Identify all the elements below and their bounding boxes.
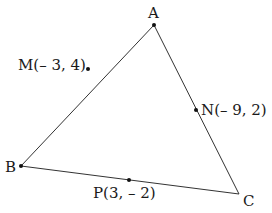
triangle-diagram: A B C M(– 3, 4) N(– 9, 2) P(3, – 2): [0, 0, 272, 213]
midpoint-p-label: P(3, – 2): [93, 184, 156, 202]
vertex-b-dot: [19, 164, 23, 168]
midpoint-m-label: M(– 3, 4): [18, 56, 86, 74]
side-ab: [21, 25, 154, 166]
vertex-a-dot: [152, 23, 156, 27]
midpoint-m-dot: [86, 67, 90, 71]
vertex-a-label: A: [147, 4, 159, 22]
vertex-b-label: B: [5, 158, 16, 176]
midpoint-n-label: N(– 9, 2): [201, 101, 267, 119]
vertex-c-label: C: [243, 192, 254, 210]
midpoint-n-dot: [194, 108, 198, 112]
midpoint-p-dot: [127, 178, 131, 182]
